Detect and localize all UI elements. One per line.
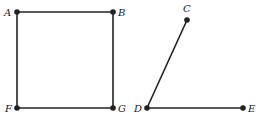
label-b: B xyxy=(117,7,125,18)
label-g: G xyxy=(118,103,126,114)
label-c: C xyxy=(183,3,191,14)
points-square xyxy=(14,9,116,111)
geometry-diagram: A B G F C D E xyxy=(0,0,258,127)
label-a: A xyxy=(3,7,11,18)
point-d xyxy=(144,105,150,111)
point-a xyxy=(14,9,20,15)
point-g xyxy=(110,105,116,111)
angle-cde xyxy=(147,20,243,108)
label-d: D xyxy=(133,103,142,114)
square-afgb xyxy=(17,12,113,108)
point-c xyxy=(184,17,190,23)
label-f: F xyxy=(4,103,13,114)
point-b xyxy=(110,9,116,15)
labels: A B G F C D E xyxy=(3,3,256,114)
point-e xyxy=(240,105,246,111)
points-angle xyxy=(144,17,246,111)
segment-dc xyxy=(147,20,187,108)
point-f xyxy=(14,105,20,111)
label-e: E xyxy=(247,103,256,114)
